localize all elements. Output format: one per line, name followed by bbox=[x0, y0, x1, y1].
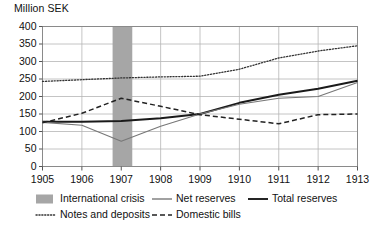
crisis-band bbox=[113, 27, 133, 167]
chart-svg: 050100150200250300350400 190519061907190… bbox=[0, 0, 382, 233]
y-tick-label: 250 bbox=[19, 72, 37, 84]
x-tick-label: 1912 bbox=[306, 173, 330, 185]
y-tick-label: 50 bbox=[25, 142, 37, 154]
y-tick-label: 100 bbox=[19, 125, 37, 137]
legend-label-notes-and-deposits: Notes and deposits bbox=[60, 208, 150, 220]
x-tick-label: 1910 bbox=[228, 173, 252, 185]
y-tick-label: 300 bbox=[19, 55, 37, 67]
chart-legend: International crisisNet reservesTotal re… bbox=[36, 192, 337, 220]
x-tick-label: 1911 bbox=[267, 173, 290, 185]
x-tick-label: 1909 bbox=[188, 173, 212, 185]
y-tick-label: 200 bbox=[19, 90, 37, 102]
x-axis-ticks: 190519061907190819091910191119121913 bbox=[31, 167, 370, 185]
y-tick-label: 150 bbox=[19, 107, 37, 119]
y-tick-label: 0 bbox=[31, 160, 37, 172]
legend-swatch-international-crisis bbox=[36, 195, 53, 204]
legend-label-net-reserves: Net reserves bbox=[176, 192, 236, 204]
legend-label-international-crisis: International crisis bbox=[60, 192, 145, 204]
x-tick-label: 1906 bbox=[70, 173, 94, 185]
x-tick-label: 1913 bbox=[346, 173, 370, 185]
legend-label-total-reserves: Total reserves bbox=[272, 192, 337, 204]
legend-label-domestic-bills: Domestic bills bbox=[176, 208, 241, 220]
crisis-band-group bbox=[113, 27, 133, 167]
x-tick-label: 1905 bbox=[31, 173, 55, 185]
chart-container: Million SEK 050100150200250300350400 190… bbox=[0, 0, 382, 233]
y-axis-ticks: 050100150200250300350400 bbox=[19, 20, 43, 172]
y-tick-label: 350 bbox=[19, 37, 37, 49]
y-tick-label: 400 bbox=[19, 20, 37, 32]
x-tick-label: 1907 bbox=[110, 173, 134, 185]
x-tick-label: 1908 bbox=[149, 173, 173, 185]
